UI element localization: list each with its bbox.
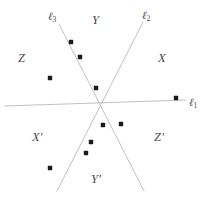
data-point <box>89 140 93 144</box>
region-label-Y: Y <box>92 14 99 27</box>
region-label-X: X <box>158 52 166 65</box>
data-point <box>69 40 73 44</box>
data-point <box>84 151 88 155</box>
lines-group <box>5 22 186 191</box>
line-l2 <box>57 22 143 191</box>
region-label-prime: ′ <box>40 130 43 144</box>
line-label-subscript: 3 <box>53 15 57 24</box>
region-label-Z: Z <box>18 52 25 65</box>
line-label-l1: ℓ1 <box>189 97 197 109</box>
data-point <box>119 122 123 126</box>
line-label-l2: ℓ2 <box>142 10 150 22</box>
data-point <box>48 76 52 80</box>
data-point <box>48 166 52 170</box>
line-label-subscript: 2 <box>147 14 151 23</box>
region-label-Yp: Y′ <box>91 173 101 186</box>
region-label-prime: ′ <box>98 172 101 186</box>
line-l3 <box>59 24 144 191</box>
region-label-letter: Z <box>18 51 25 65</box>
line-label-l3: ℓ3 <box>48 11 56 23</box>
region-label-Xp: X′ <box>32 131 43 144</box>
region-label-letter: X <box>32 130 40 144</box>
diagram-canvas <box>0 0 207 198</box>
data-point <box>94 86 98 90</box>
region-label-letter: Y <box>92 13 99 27</box>
data-point <box>78 55 82 59</box>
region-label-letter: X <box>158 51 166 65</box>
line-label-subscript: 1 <box>194 101 198 110</box>
figure-container: ℓ1ℓ2ℓ3 YZXX′Z′Y′ <box>0 0 207 198</box>
region-label-Zp: Z′ <box>154 131 164 144</box>
region-label-prime: ′ <box>161 130 164 144</box>
data-point <box>174 96 178 100</box>
line-l1 <box>5 100 186 106</box>
data-point <box>101 123 105 127</box>
